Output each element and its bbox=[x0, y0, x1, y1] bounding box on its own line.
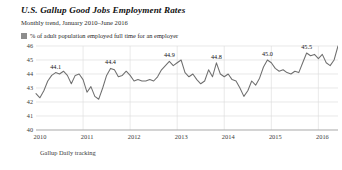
series-line-employment bbox=[36, 46, 338, 99]
legend-label: % of adult population employed full time… bbox=[30, 32, 178, 40]
data-point-label: 44.1 bbox=[50, 63, 61, 70]
data-point-label: 44.4 bbox=[105, 58, 116, 65]
chart-subtitle: Monthly trend, January 2010–June 2016 bbox=[21, 18, 338, 27]
chart-figure: U.S. Gallup Good Jobs Employment Rates M… bbox=[0, 0, 342, 170]
x-axis-tick-label: 2012 bbox=[128, 133, 141, 140]
y-gridlines bbox=[36, 46, 338, 130]
y-axis-tick-label: 44 bbox=[27, 70, 33, 77]
x-axis-tick-label: 2013 bbox=[175, 133, 188, 140]
data-point-label: 45.0 bbox=[262, 50, 273, 57]
legend-swatch-icon bbox=[21, 33, 27, 39]
x-axis-tick-label: 2011 bbox=[81, 133, 94, 140]
data-point-label: 45.5 bbox=[301, 44, 312, 50]
x-axis-tick-label: 2016 bbox=[316, 133, 329, 140]
y-axis-tick-label: 43 bbox=[27, 84, 33, 91]
y-axis-tick-label: 45 bbox=[27, 56, 33, 63]
data-point-labels: 44.144.444.944.845.045.546.0 bbox=[50, 44, 338, 70]
y-axis-tick-label: 42 bbox=[27, 98, 33, 105]
chart-source: Gallup Daily tracking bbox=[40, 149, 338, 156]
chart-legend: % of adult population employed full time… bbox=[21, 32, 338, 40]
data-point-label: 44.9 bbox=[164, 51, 175, 58]
y-axis-tick-label: 40 bbox=[27, 126, 33, 133]
page-title: U.S. Gallup Good Jobs Employment Rates bbox=[21, 5, 338, 16]
data-point-label: 44.8 bbox=[211, 53, 222, 60]
line-chart-svg: 46454443424140 2010201120122013201420152… bbox=[21, 44, 338, 144]
x-axis-tick-label: 2014 bbox=[222, 133, 236, 140]
y-axis-labels: 46454443424140 bbox=[27, 44, 33, 133]
x-axis-tick-label: 2010 bbox=[34, 133, 47, 140]
y-axis-tick-label: 46 bbox=[27, 44, 33, 49]
plot-area: 46454443424140 2010201120122013201420152… bbox=[21, 44, 338, 144]
x-axis-tick-label: 2015 bbox=[269, 133, 282, 140]
x-axis-labels: 2010201120122013201420152016 bbox=[34, 133, 329, 140]
y-axis-tick-label: 41 bbox=[27, 112, 33, 119]
